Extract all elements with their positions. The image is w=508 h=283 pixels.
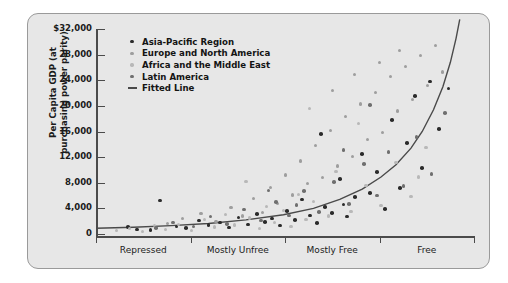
y-axis-tick-label: 8,000 bbox=[32, 178, 92, 187]
y-axis-tick bbox=[98, 234, 105, 235]
data-point bbox=[347, 202, 351, 206]
legend-item-europe-north-america: Europe and North America bbox=[126, 48, 316, 60]
y-axis-tick-label: 4,000 bbox=[32, 203, 92, 212]
data-point bbox=[342, 148, 346, 152]
data-point bbox=[338, 177, 342, 181]
data-point bbox=[233, 223, 236, 226]
data-point bbox=[274, 200, 278, 204]
data-point bbox=[319, 132, 323, 136]
data-point bbox=[398, 186, 402, 190]
data-point bbox=[315, 221, 319, 225]
data-point bbox=[199, 212, 202, 215]
x-axis-tick bbox=[96, 236, 97, 243]
data-point bbox=[362, 162, 366, 166]
data-point bbox=[405, 141, 409, 145]
data-point bbox=[332, 180, 336, 184]
legend-item-asia-pacific: Asia-Pacific Region bbox=[126, 36, 316, 48]
y-axis-title: Per Capita GDP (at purchasing power pari… bbox=[48, 23, 69, 163]
data-point bbox=[409, 195, 412, 198]
data-point bbox=[255, 212, 259, 216]
data-point bbox=[299, 159, 302, 162]
data-point bbox=[417, 175, 420, 178]
data-point bbox=[334, 170, 337, 173]
y-axis-tick bbox=[98, 157, 105, 158]
data-point bbox=[389, 75, 392, 78]
y-axis-tick-label: 20,000 bbox=[32, 101, 92, 110]
legend-label: Africa and the Middle East bbox=[142, 60, 270, 70]
legend-dot-icon bbox=[126, 75, 138, 78]
data-point bbox=[374, 91, 377, 94]
data-point bbox=[387, 150, 391, 154]
data-point bbox=[312, 200, 315, 203]
data-point bbox=[273, 221, 276, 224]
data-point bbox=[394, 161, 397, 164]
legend-label: Fitted Line bbox=[142, 83, 194, 93]
data-point bbox=[424, 146, 427, 149]
legend-dot-icon bbox=[126, 63, 138, 66]
data-point bbox=[327, 214, 330, 217]
data-point bbox=[293, 218, 297, 222]
y-axis-tick-label: $32,000 bbox=[32, 24, 92, 33]
legend: Asia-Pacific Region Europe and North Ame… bbox=[126, 36, 316, 94]
data-point bbox=[302, 189, 306, 193]
x-axis-tick bbox=[191, 236, 192, 243]
data-point bbox=[190, 229, 193, 232]
data-point bbox=[263, 220, 267, 224]
data-point bbox=[149, 228, 153, 232]
data-point bbox=[181, 217, 184, 220]
data-point bbox=[323, 205, 327, 209]
data-point bbox=[437, 127, 441, 131]
y-axis-tick bbox=[98, 183, 105, 184]
data-point bbox=[207, 223, 211, 227]
y-axis-tick-label: 12,000 bbox=[32, 152, 92, 161]
legend-item-latin-america: Latin America bbox=[126, 71, 316, 83]
data-point bbox=[329, 129, 332, 132]
data-point bbox=[402, 184, 406, 188]
legend-dot-icon bbox=[126, 40, 138, 43]
y-axis-tick-label: 24,000 bbox=[32, 75, 92, 84]
data-point bbox=[214, 220, 217, 223]
data-point bbox=[359, 102, 362, 105]
data-point bbox=[218, 221, 222, 225]
data-point bbox=[368, 191, 372, 195]
y-axis-tick-label: 28,000 bbox=[32, 50, 92, 59]
data-point bbox=[184, 226, 188, 230]
data-point bbox=[344, 115, 347, 118]
data-point bbox=[282, 209, 285, 212]
data-point bbox=[289, 225, 292, 228]
data-point bbox=[390, 118, 394, 122]
data-point bbox=[252, 197, 255, 200]
legend-dot-icon bbox=[126, 52, 138, 55]
data-point bbox=[241, 214, 244, 217]
data-point bbox=[285, 209, 289, 213]
y-axis-tick bbox=[98, 208, 105, 209]
data-point bbox=[357, 122, 360, 125]
x-axis-category-label: Repressed bbox=[96, 245, 191, 256]
data-point bbox=[430, 172, 434, 176]
data-point bbox=[349, 210, 352, 213]
data-point bbox=[364, 184, 367, 187]
x-axis-tick bbox=[380, 236, 381, 243]
data-point bbox=[248, 216, 251, 219]
y-axis-tick bbox=[98, 132, 105, 133]
data-point bbox=[304, 218, 307, 221]
legend-label: Europe and North America bbox=[142, 48, 270, 58]
y-axis-tick-label: 0 bbox=[32, 229, 92, 238]
data-point bbox=[154, 226, 158, 230]
data-point bbox=[171, 221, 175, 225]
x-axis-category-label: Mostly Free bbox=[285, 245, 380, 256]
y-axis-tick bbox=[98, 80, 105, 81]
data-point bbox=[278, 224, 282, 228]
data-point bbox=[308, 214, 312, 218]
data-point bbox=[229, 206, 232, 209]
legend-item-fitted-line: Fitted Line bbox=[126, 82, 316, 94]
y-axis-tick bbox=[98, 55, 105, 56]
data-point bbox=[177, 223, 180, 226]
data-point bbox=[317, 210, 321, 214]
data-point bbox=[383, 207, 387, 211]
data-point bbox=[375, 170, 379, 174]
data-point bbox=[297, 193, 300, 196]
x-axis-category-label: Free bbox=[380, 245, 475, 256]
data-point bbox=[259, 219, 263, 223]
data-point bbox=[258, 227, 261, 230]
